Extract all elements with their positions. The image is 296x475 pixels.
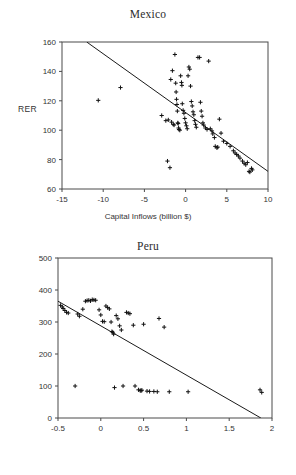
x-tick-label: -15 xyxy=(56,195,68,204)
scatter-point xyxy=(221,139,225,143)
scatter-point xyxy=(174,81,178,85)
scatter-point xyxy=(118,85,122,89)
plot-content xyxy=(58,298,264,419)
x-tick-label: 0 xyxy=(183,195,188,204)
y-tick-label: 0 xyxy=(48,414,53,423)
y-tick-label: 120 xyxy=(43,97,57,106)
plot-frame xyxy=(62,42,268,189)
scatter-point xyxy=(121,384,125,388)
y-tick-label: 500 xyxy=(39,254,53,263)
y-tick-label: 400 xyxy=(39,286,53,295)
scatter-point xyxy=(219,131,223,135)
scatter-point xyxy=(188,84,192,88)
y-tick-label: 140 xyxy=(43,67,57,76)
plot-content xyxy=(87,42,268,174)
scatter-point xyxy=(198,100,202,104)
scatter-point xyxy=(97,308,101,312)
scatter-point xyxy=(165,159,169,163)
scatter-point xyxy=(179,74,183,78)
x-tick-label: 10 xyxy=(264,195,273,204)
plot-frame xyxy=(58,258,272,418)
scatter-point xyxy=(169,77,173,81)
scatter-point xyxy=(184,121,188,125)
x-tick-label: 1.5 xyxy=(224,424,236,433)
scatter-point xyxy=(96,98,100,102)
y-tick-label: 100 xyxy=(43,126,57,135)
scatter-point xyxy=(73,384,77,388)
scatter-point xyxy=(133,384,137,388)
scatter-point xyxy=(176,121,180,125)
scatter-point xyxy=(119,328,123,332)
x-tick-label: -5 xyxy=(141,195,149,204)
x-tick-label: 1 xyxy=(184,424,189,433)
x-tick-label: -0.5 xyxy=(51,424,65,433)
scatter-point xyxy=(167,390,171,394)
scatter-point xyxy=(191,110,195,114)
scatter-point xyxy=(173,52,177,56)
x-tick-label: 5 xyxy=(225,195,230,204)
scatter-point xyxy=(170,69,174,73)
scatter-point xyxy=(155,390,159,394)
scatter-point xyxy=(118,324,122,328)
scatter-point xyxy=(131,323,135,327)
scatter-point xyxy=(217,117,221,121)
scatter-point xyxy=(186,390,190,394)
plot-area-mexico: 6080100120140160-15-10-50510 xyxy=(0,0,296,236)
scatter-point xyxy=(157,316,161,320)
scatter-point xyxy=(162,325,166,329)
y-tick-label: 100 xyxy=(39,382,53,391)
y-tick-label: 60 xyxy=(47,185,56,194)
regression-line xyxy=(87,42,268,171)
scatter-point xyxy=(193,122,197,126)
scatter-point xyxy=(199,109,203,113)
scatter-point xyxy=(216,145,220,149)
y-tick-label: 300 xyxy=(39,318,53,327)
scatter-point xyxy=(164,119,168,123)
scatter-point xyxy=(172,123,176,127)
scatter-point xyxy=(187,65,191,69)
scatter-point xyxy=(180,102,184,106)
plot-area-peru: 0100200300400500-0.500.511.52 xyxy=(0,236,296,475)
scatter-point xyxy=(139,389,143,393)
scatter-point xyxy=(175,109,179,113)
scatter-point xyxy=(174,90,178,94)
scatter-point xyxy=(186,74,190,78)
scatter-point xyxy=(147,389,151,393)
scatter-point xyxy=(185,127,189,131)
scatter-point xyxy=(112,386,116,390)
x-tick-label: -10 xyxy=(97,195,109,204)
scatter-point xyxy=(248,170,252,174)
x-tick-label: 0.5 xyxy=(138,424,150,433)
y-tick-label: 160 xyxy=(43,38,57,47)
scatter-point xyxy=(190,104,194,108)
y-tick-label: 80 xyxy=(47,156,56,165)
scatter-point xyxy=(189,99,193,103)
scatter-point xyxy=(166,118,170,122)
scatter-point xyxy=(212,135,216,139)
scatter-point xyxy=(160,113,164,117)
scatter-point xyxy=(81,307,85,311)
scatter-point xyxy=(184,124,188,128)
scatter-point xyxy=(207,59,211,63)
chart-panel-peru: Peru RER 0100200300400500-0.500.511.52 C… xyxy=(0,236,296,475)
scatter-point xyxy=(174,97,178,101)
scatter-point xyxy=(142,322,146,326)
y-tick-label: 200 xyxy=(39,350,53,359)
scatter-point xyxy=(194,125,198,129)
scatter-point xyxy=(192,113,196,117)
scatter-point xyxy=(188,67,192,71)
scatter-point xyxy=(109,320,113,324)
scatter-point xyxy=(168,166,172,170)
scatter-point xyxy=(200,114,204,118)
scatter-point xyxy=(183,116,187,120)
scatter-point xyxy=(225,141,229,145)
x-tick-label: 0 xyxy=(99,424,104,433)
scatter-point xyxy=(99,313,103,317)
chart-panel-mexico: Mexico RER 6080100120140160-15-10-50510 … xyxy=(0,0,296,236)
x-axis-label-mexico: Capital Inflows (billion $) xyxy=(0,212,296,221)
x-tick-label: 2 xyxy=(270,424,275,433)
scatter-point xyxy=(193,119,197,123)
scatter-point xyxy=(180,83,184,87)
